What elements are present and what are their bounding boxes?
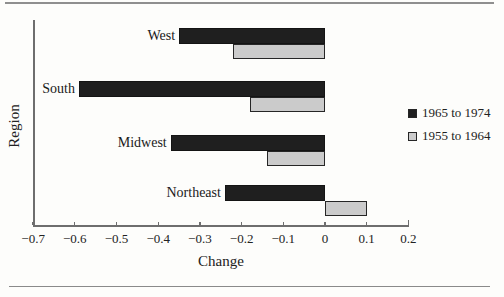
bar-midwest-1965-to-1974: [171, 135, 325, 151]
bar-west-1955-to-1964: [233, 44, 325, 60]
x-tick: [408, 220, 409, 226]
x-tick: [283, 222, 284, 226]
y-axis-line: [33, 20, 35, 226]
bottom-rule: [9, 286, 490, 287]
legend-item-1965-1974: 1965 to 1974: [408, 105, 491, 121]
x-tick-label: −0.7: [21, 231, 45, 247]
bar-south-1965-to-1974: [79, 81, 325, 97]
bar-west-1965-to-1974: [179, 28, 325, 44]
x-tick: [241, 222, 242, 226]
category-label-midwest: Midwest: [118, 135, 167, 151]
bar-midwest-1955-to-1964: [267, 151, 325, 167]
x-tick-label: −0.6: [63, 231, 87, 247]
x-tick-label: 0: [322, 231, 329, 247]
x-tick: [366, 222, 367, 226]
category-label-northeast: Northeast: [166, 185, 220, 201]
x-tick: [158, 222, 159, 226]
x-tick: [324, 222, 325, 226]
x-tick: [199, 222, 200, 226]
x-tick-label: 0.1: [359, 231, 375, 247]
x-axis-line: [33, 225, 409, 227]
legend-label-1955-1964: 1955 to 1964: [422, 128, 491, 144]
bar-south-1955-to-1964: [250, 97, 325, 113]
x-tick: [116, 222, 117, 226]
legend: 1965 to 1974 1955 to 1964: [408, 105, 491, 151]
x-tick-label: −0.3: [188, 231, 212, 247]
legend-swatch-1965-1974: [408, 109, 417, 118]
legend-label-1965-1974: 1965 to 1974: [422, 105, 491, 121]
x-tick: [32, 222, 33, 226]
bar-northeast-1955-to-1964: [325, 201, 367, 217]
category-label-west: West: [147, 28, 175, 44]
top-rule: [5, 2, 494, 4]
x-tick: [74, 222, 75, 226]
x-tick-label: −0.5: [105, 231, 129, 247]
bar-northeast-1965-to-1974: [225, 185, 325, 201]
category-label-south: South: [42, 81, 75, 97]
y-axis-title: Region: [6, 104, 23, 147]
x-tick-label: −0.4: [146, 231, 170, 247]
legend-swatch-1955-1964: [408, 132, 417, 141]
x-tick-label: 0.2: [400, 231, 416, 247]
x-axis-title: Change: [198, 253, 244, 270]
figure: Region −0.7−0.6−0.5−0.4−0.3−0.2−0.100.10…: [0, 0, 504, 297]
x-tick-label: −0.2: [230, 231, 254, 247]
legend-item-1955-1964: 1955 to 1964: [408, 128, 491, 144]
x-tick-label: −0.1: [272, 231, 296, 247]
